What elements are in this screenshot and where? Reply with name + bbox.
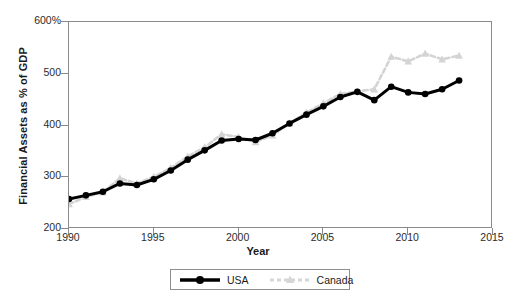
legend-item-canada[interactable]: Canada [268, 270, 354, 289]
y-tick [61, 21, 68, 22]
data-point [151, 176, 158, 183]
data-point [201, 147, 208, 154]
data-point [218, 137, 225, 144]
data-point [100, 188, 107, 195]
chart-legend: USA Canada [170, 269, 350, 290]
data-point [422, 91, 429, 98]
y-tick [61, 73, 68, 74]
chart-canvas [69, 22, 493, 229]
data-point [83, 192, 90, 199]
data-point [167, 167, 174, 174]
x-tick-label: 2010 [387, 231, 427, 243]
y-tick [61, 176, 68, 177]
data-point [303, 111, 310, 118]
legend-label-canada: Canada [317, 274, 354, 286]
x-tick-label: 1995 [133, 231, 173, 243]
x-tick-label: 2000 [218, 231, 258, 243]
legend-label-usa: USA [227, 274, 249, 286]
y-tick-label: 400 [15, 118, 61, 130]
legend-item-usa[interactable]: USA [178, 270, 249, 289]
data-point [354, 89, 361, 96]
x-axis-title: Year [0, 245, 516, 257]
data-point [69, 196, 72, 203]
plot-area [68, 21, 492, 228]
data-point [388, 83, 395, 90]
y-tick-label: 300 [15, 169, 61, 181]
y-tick [61, 228, 68, 229]
series-usa [69, 77, 462, 202]
data-point [134, 182, 141, 189]
data-point [439, 86, 446, 93]
x-tick-label: 2005 [302, 231, 342, 243]
data-point [252, 137, 259, 144]
data-point [117, 180, 124, 187]
data-point [337, 94, 344, 101]
series-line [69, 54, 459, 205]
y-tick-label: 600% [15, 14, 61, 26]
data-point [235, 136, 242, 143]
x-tick-label: 2015 [472, 231, 512, 243]
data-point [286, 120, 293, 127]
y-tick [61, 125, 68, 126]
data-point [456, 77, 463, 84]
data-point [405, 89, 412, 96]
chart-figure: Financial Assets as % of GDP 20030040050… [0, 0, 516, 299]
data-point [320, 103, 327, 110]
legend-symbol-usa [178, 273, 222, 287]
legend-symbol-canada [268, 273, 312, 287]
data-point [184, 156, 191, 163]
data-point [387, 53, 395, 60]
data-point [269, 130, 276, 137]
data-point [371, 97, 378, 104]
x-tick-label: 1990 [48, 231, 88, 243]
y-tick-label: 500 [15, 66, 61, 78]
